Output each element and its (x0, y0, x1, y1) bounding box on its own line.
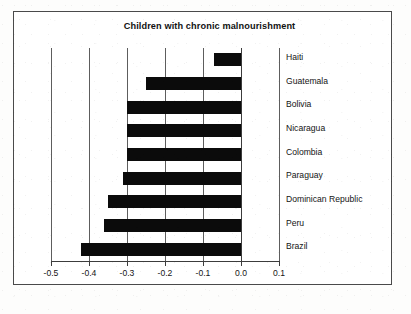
bar-paraguay (123, 172, 241, 185)
bar-nicaragua (127, 124, 241, 137)
gridline--0.5 (51, 48, 52, 261)
tick-label--0.1: -0.1 (196, 268, 211, 278)
tickmark-0.1 (279, 261, 280, 266)
bar-colombia (127, 148, 241, 161)
chart-title: Children with chronic malnourishment (14, 21, 391, 31)
category-labels: HaitiGuatemalaBoliviaNicaraguaColombiaPa… (286, 48, 396, 261)
bar-bolivia (127, 101, 241, 114)
zero-baseline (241, 48, 242, 261)
plot-right-rule (279, 48, 280, 261)
tick-label--0.3: -0.3 (120, 268, 135, 278)
plot-area (51, 48, 279, 261)
tick-label--0.4: -0.4 (82, 268, 97, 278)
tickmark-0.0 (241, 261, 242, 266)
category-label-peru: Peru (286, 218, 304, 228)
tick-label--0.2: -0.2 (158, 268, 173, 278)
category-label-nicaragua: Nicaragua (286, 123, 325, 133)
category-label-bolivia: Bolivia (286, 99, 311, 109)
category-label-paraguay: Paraguay (286, 170, 323, 180)
tickmark--0.5 (51, 261, 52, 266)
category-label-colombia: Colombia (286, 147, 322, 157)
category-label-guatemala: Guatemala (286, 76, 328, 86)
scanned-page: Children with chronic malnourishment -0.… (0, 0, 411, 314)
category-label-brazil: Brazil (286, 241, 308, 251)
tick-label-0.0: 0.0 (235, 268, 247, 278)
category-label-dominican-republic: Dominican Republic (286, 194, 362, 204)
tick-label--0.5: -0.5 (44, 268, 59, 278)
tickmark--0.1 (203, 261, 204, 266)
chart-frame: Children with chronic malnourishment -0.… (13, 11, 392, 285)
category-label-haiti: Haiti (286, 52, 303, 62)
bar-brazil (81, 243, 241, 256)
gridline--0.4 (89, 48, 90, 261)
tickmark--0.2 (165, 261, 166, 266)
bar-haiti (214, 53, 241, 66)
bar-guatemala (146, 77, 241, 90)
tick-label-0.1: 0.1 (273, 268, 285, 278)
tickmark--0.4 (89, 261, 90, 266)
bar-dominican-republic (108, 195, 241, 208)
bar-peru (104, 219, 241, 232)
tickmark--0.3 (127, 261, 128, 266)
